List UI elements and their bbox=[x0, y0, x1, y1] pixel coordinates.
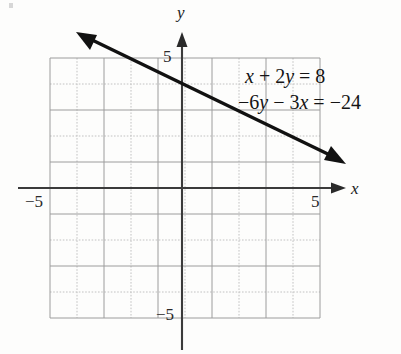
x-axis-label: x bbox=[351, 180, 359, 197]
equation-first: x + 2y = 8 bbox=[245, 66, 325, 86]
graph-figure: y x 5 −5 −5 5 x + 2y = 8 −6y − 3x = −24 bbox=[0, 0, 401, 354]
equation-first-coeff-2: 2 bbox=[275, 65, 285, 87]
line-arrowhead-upper-left bbox=[76, 32, 97, 50]
equation-second: −6y − 3x = −24 bbox=[238, 92, 361, 112]
equation-second-rhs: −24 bbox=[330, 91, 361, 113]
x-axis-tick-negative-5: −5 bbox=[25, 193, 43, 210]
y-axis-tick-positive-5: 5 bbox=[163, 48, 172, 65]
coordinate-plane bbox=[0, 0, 401, 354]
y-axis-arrowhead bbox=[177, 32, 188, 47]
equation-first-plus: + bbox=[259, 65, 270, 87]
equation-second-var-x: x bbox=[299, 91, 308, 113]
equation-first-rhs: 8 bbox=[315, 65, 325, 87]
equation-first-var-x: x bbox=[245, 65, 254, 87]
equation-first-var-y: y bbox=[285, 65, 294, 87]
equation-second-equals: = bbox=[313, 91, 324, 113]
equation-second-coeff-1: −6 bbox=[238, 91, 259, 113]
x-axis-arrowhead bbox=[331, 183, 346, 194]
y-axis-label: y bbox=[177, 4, 185, 21]
equation-first-equals: = bbox=[299, 65, 310, 87]
equation-second-minus: − bbox=[273, 91, 284, 113]
line-arrowhead-lower-right bbox=[324, 146, 346, 164]
y-axis-tick-negative-5: −5 bbox=[156, 306, 174, 323]
y-axis bbox=[177, 32, 188, 350]
equation-second-coeff-2: 3 bbox=[289, 91, 299, 113]
equation-second-var-y: y bbox=[259, 91, 268, 113]
x-axis-tick-positive-5: 5 bbox=[311, 193, 320, 210]
